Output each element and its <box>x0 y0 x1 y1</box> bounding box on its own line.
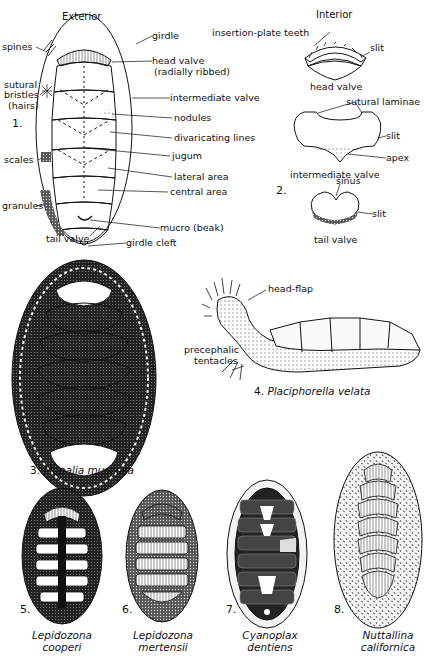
label-divaricating-lines: divaricating lines <box>174 133 255 143</box>
figure-8-caption: Nuttallina californica <box>344 629 432 653</box>
label-intermediate-valve-interior: intermediate valve <box>290 170 380 180</box>
figure-1-exterior-chiton <box>36 14 132 245</box>
label-slit-tail: slit <box>372 209 386 219</box>
label-central-area: central area <box>170 187 227 197</box>
label-girdle-cleft: girdle cleft <box>126 238 177 248</box>
label-head-valve-interior: head valve <box>310 82 362 92</box>
label-spines: spines <box>2 42 32 52</box>
figure-3-species: Mopalia muscosa <box>43 464 134 476</box>
label-tail-valve-interior: tail valve <box>314 235 357 245</box>
label-mucro: mucro (beak) <box>160 223 224 233</box>
figure-2-number: 2. <box>276 184 287 197</box>
label-head-valve: head valve <box>152 56 204 66</box>
figure-7-caption: Cyanoplax dentiens <box>228 629 312 653</box>
figure-1-number: 1. <box>12 117 23 130</box>
label-granules: granules <box>2 201 43 211</box>
label-sinus: sinus <box>336 176 361 186</box>
label-bristles: bristles <box>4 90 39 100</box>
label-hairs: (hairs) <box>8 101 39 111</box>
label-slit-intermediate: slit <box>386 131 400 141</box>
label-head-flap: head-flap <box>268 284 313 294</box>
label-precephalic: precephalic <box>184 345 239 355</box>
figure-3-caption: 3. Mopalia muscosa <box>30 464 134 476</box>
figure-6-number: 6. <box>122 603 133 616</box>
figure-5-caption: Lepidozona cooperi <box>20 629 104 653</box>
figure-8-nuttallina-californica <box>334 452 422 628</box>
label-jugum: jugum <box>172 151 202 161</box>
figure-2-interior-valves <box>294 32 386 224</box>
figure-7-number: 7. <box>226 603 237 616</box>
label-apex: apex <box>386 153 409 163</box>
label-scales: scales <box>4 155 33 165</box>
figure-6-caption: Lepidozona mertensii <box>118 629 208 653</box>
label-slit-head: slit <box>370 43 384 53</box>
label-head-valve-note: (radially ribbed) <box>154 67 230 77</box>
label-insertion-plate-teeth: insertion-plate teeth <box>212 28 309 38</box>
figure-4-caption: 4. Placiphorella velata <box>254 385 370 397</box>
label-nodules: nodules <box>174 113 211 123</box>
figure-7-cyanoplax-dentiens <box>227 480 307 628</box>
label-tentacles: tentacles <box>194 356 238 366</box>
figure-8-number: 8. <box>334 603 345 616</box>
figure-5-lepidozona-cooperi <box>22 488 102 624</box>
figure-3-mopalia-muscosa <box>12 260 156 496</box>
label-girdle: girdle <box>152 31 179 41</box>
label-sutural-laminae: sutural laminae <box>346 97 420 107</box>
figure-2-title: Interior <box>316 10 352 20</box>
figure-4-species: Placiphorella velata <box>267 385 370 397</box>
label-intermediate-valve: intermediate valve <box>170 93 260 103</box>
label-lateral-area: lateral area <box>174 172 229 182</box>
figure-5-number: 5. <box>20 603 31 616</box>
figure-1-title: Exterior <box>62 12 101 22</box>
label-tail-valve: tail valve <box>46 234 89 244</box>
figure-6-lepidozona-mertensii <box>126 490 198 622</box>
